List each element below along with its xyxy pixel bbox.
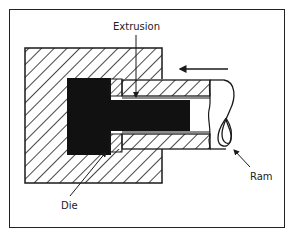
die-label: Die — [61, 201, 78, 211]
ram-leader — [234, 150, 250, 167]
extrusion — [110, 100, 190, 131]
billet — [67, 78, 111, 155]
ram-label: Ram — [250, 172, 273, 182]
extrusion-diagram — [0, 0, 294, 238]
extrusion-label: Extrusion — [113, 22, 160, 32]
